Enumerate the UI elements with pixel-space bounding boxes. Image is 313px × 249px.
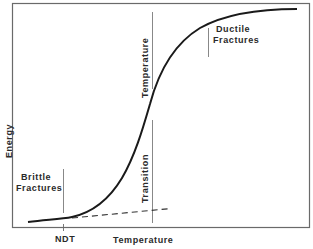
ductile-label-line1: Ductile: [216, 24, 250, 34]
lower-shelf-extrapolation-line: [72, 209, 171, 219]
energy-transition-chart: Energy Temperature NDT Brittle Fractures…: [0, 0, 313, 249]
ndt-tick-label: NDT: [55, 234, 75, 244]
ductile-label-line2: Fractures: [213, 35, 259, 45]
x-axis-label: Temperature: [113, 235, 173, 245]
brittle-label-line2: Fractures: [16, 183, 62, 193]
transition-label: Transition: [140, 154, 150, 203]
transition-temperature-label: Temperature: [140, 38, 150, 98]
y-axis-label: Energy: [4, 124, 14, 158]
brittle-label-line1: Brittle: [21, 172, 51, 182]
plot-frame: [13, 4, 310, 228]
